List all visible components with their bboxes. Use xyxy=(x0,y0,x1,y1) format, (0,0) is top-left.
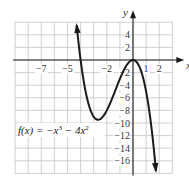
y-tick-label: −16 xyxy=(114,155,130,166)
y-tick-label: −12 xyxy=(114,130,130,141)
x-tick-label: −2 xyxy=(101,63,112,74)
curve-start-arrow-icon xyxy=(74,23,80,33)
y-axis-label: y xyxy=(122,6,128,18)
y-tick-label: 2 xyxy=(125,42,130,53)
x-tick-label: 1 xyxy=(144,63,149,74)
y-tick-label: −6 xyxy=(119,92,130,103)
axes: xy xyxy=(13,6,189,175)
y-tick-label: −10 xyxy=(114,118,130,129)
x-tick-label: −5 xyxy=(62,63,73,74)
y-tick-label: −8 xyxy=(119,105,130,116)
function-label: f(x) = −x3 − 4x2 xyxy=(17,123,105,137)
grid xyxy=(15,22,172,173)
x-axis-label: x xyxy=(185,59,189,71)
function-label-text: f(x) = −x3 − 4x2 xyxy=(18,124,89,137)
x-tick-label: −7 xyxy=(36,63,47,74)
x-tick-label: 2 xyxy=(157,63,162,74)
function-graph: xy −7−5−21242−2−4−6−8−10−12−14−16 f(x) =… xyxy=(0,0,189,181)
x-axis-arrow-icon xyxy=(176,57,184,63)
y-tick-label: −4 xyxy=(119,80,130,91)
y-axis-arrow-icon xyxy=(130,10,136,18)
y-tick-label: 4 xyxy=(125,29,130,40)
y-tick-label: −14 xyxy=(114,143,130,154)
curve-end-arrow-icon xyxy=(152,163,158,173)
